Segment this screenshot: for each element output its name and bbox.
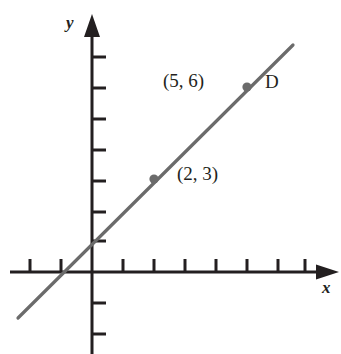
line-label-d: D xyxy=(265,71,279,93)
figure-background xyxy=(0,0,341,354)
point-label-2-3: (2, 3) xyxy=(177,163,218,185)
data-point-2-3 xyxy=(149,174,158,183)
data-point-5-6 xyxy=(242,82,251,91)
x-axis-label: x xyxy=(322,278,331,298)
coordinate-plane-figure xyxy=(0,0,341,354)
y-axis-label: y xyxy=(66,13,74,33)
point-label-5-6: (5, 6) xyxy=(163,70,204,92)
